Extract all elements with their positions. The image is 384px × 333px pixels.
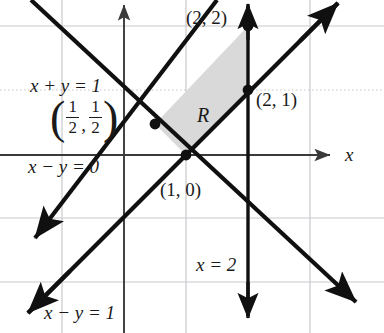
label-x-minus-y-eq-0: x − y = 0: [28, 157, 99, 176]
line-x-minus-y-eq-1-arrow-up: [300, 3, 338, 41]
numerator: 1: [67, 98, 80, 116]
label-point-2-1: (2, 1): [256, 90, 297, 109]
label-point-2-2: (2, 2): [186, 8, 227, 27]
line-x-plus-y-eq-1-stroke: [31, 0, 37, 246]
vertex-dot-2-2: [243, 21, 254, 32]
line-x-plus-y-eq-1: [31, 0, 40, 241]
close-paren: ): [103, 98, 118, 137]
fraction-one-half-second: 1 2: [89, 98, 102, 137]
numerator: 1: [89, 98, 102, 116]
denominator: 2: [89, 119, 102, 137]
label-x-eq-2: x = 2: [196, 255, 236, 274]
open-paren: (: [50, 98, 65, 137]
label-x-plus-y-eq-1: x + y = 1: [30, 76, 101, 95]
vertex-dot-2-1: [243, 85, 254, 96]
label-region-r: R: [197, 105, 209, 125]
denominator: 2: [67, 119, 80, 137]
figure-region-r: x + y = 1 x − y = 0 x − y = 1 x = 2 (2, …: [0, 0, 384, 333]
line-x-minus-y-eq-0-segment: [31, 0, 356, 302]
fraction-one-half-first: 1 2: [66, 98, 79, 137]
label-x-minus-y-eq-1: x − y = 1: [44, 303, 115, 322]
label-point-half-half: ( 1 2 , 1 2 ): [50, 98, 118, 137]
label-point-1-0: (1, 0): [160, 180, 201, 199]
label-axis-x: x: [345, 145, 353, 164]
vertex-dot-1-0: [181, 150, 192, 161]
comma: ,: [80, 115, 88, 137]
vertex-dot-half-half: [150, 119, 161, 130]
